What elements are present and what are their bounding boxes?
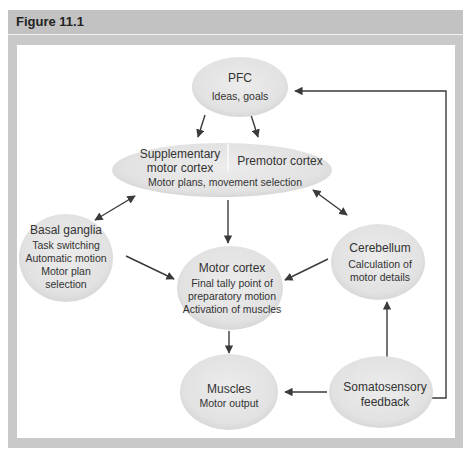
sma-title-line1: Supplementary — [140, 147, 221, 161]
somatosensory-line: feedback — [361, 395, 411, 409]
edge-basal-ganglia-motor-cortex — [126, 256, 174, 279]
basal-ganglia-line1: Task switching — [32, 239, 100, 251]
edge-pfc-sma — [198, 115, 205, 137]
muscles-line: Motor output — [200, 397, 259, 409]
somatosensory-title: Somatosensory — [343, 380, 426, 394]
node-pfc: PFC Ideas, goals — [192, 57, 288, 117]
node-sma-premotor: Supplementary motor cortex Premotor cort… — [112, 143, 332, 197]
motor-cortex-line2: preparatory motion — [188, 290, 276, 302]
flow-diagram: PFC Ideas, goals Supplementary motor cor… — [0, 0, 467, 450]
node-cerebellum: Cerebellum Calculation of motor details — [331, 224, 425, 300]
node-muscles: Muscles Motor output — [180, 354, 278, 430]
muscles-title: Muscles — [207, 382, 251, 396]
edge-pfc-premotor — [251, 115, 258, 137]
motor-cortex-line3: Activation of muscles — [183, 303, 282, 315]
cerebellum-title: Cerebellum — [349, 241, 410, 255]
edge-sma-basal-ganglia — [95, 196, 135, 220]
edge-cerebellum-motor-cortex — [285, 259, 328, 280]
motor-cortex-line1: Final tally point of — [191, 277, 273, 289]
node-basal-ganglia: Basal ganglia Task switching Automatic m… — [19, 214, 113, 302]
basal-ganglia-title: Basal ganglia — [30, 223, 102, 237]
node-somatosensory: Somatosensory feedback — [329, 356, 433, 428]
basal-ganglia-line3: Motor plan — [41, 265, 91, 277]
basal-ganglia-line4: selection — [45, 278, 87, 290]
basal-ganglia-line2: Automatic motion — [25, 252, 106, 264]
pfc-line: Ideas, goals — [212, 90, 269, 102]
motor-cortex-title: Motor cortex — [199, 261, 266, 275]
cerebellum-line2: motor details — [350, 271, 410, 283]
sma-sub: Motor plans, movement selection — [148, 176, 302, 188]
cerebellum-line1: Calculation of — [348, 258, 412, 270]
edge-premotor-cerebellum — [313, 190, 347, 215]
node-motor-cortex: Motor cortex Final tally point of prepar… — [177, 246, 283, 330]
sma-title-line2: motor cortex — [147, 161, 214, 175]
pfc-title: PFC — [228, 71, 252, 85]
premotor-title: Premotor cortex — [237, 154, 322, 168]
